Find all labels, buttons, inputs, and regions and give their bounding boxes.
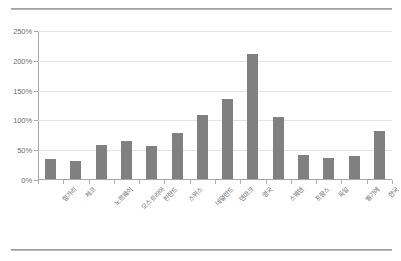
bar[interactable]: [70, 161, 81, 179]
bar[interactable]: [247, 54, 258, 179]
x-axis-category-label: 벨기에: [364, 185, 381, 202]
bar[interactable]: [349, 156, 360, 179]
y-axis-tick-label: 100%: [13, 116, 32, 125]
y-axis-tick-label: 200%: [13, 56, 32, 65]
bar[interactable]: [121, 141, 132, 179]
x-axis-category-label: 영국: [261, 185, 274, 198]
bars-group: [38, 31, 392, 180]
plot-area: 0%50%100%150%200%250%: [38, 31, 392, 180]
bar[interactable]: [323, 158, 334, 179]
x-axis-category-label: 프랑스: [313, 185, 330, 202]
top-divider-rule: [11, 8, 392, 10]
x-axis-category-label: 네덜란드: [214, 185, 235, 206]
bar[interactable]: [374, 131, 385, 179]
bar[interactable]: [273, 117, 284, 179]
x-axis-category-label: 독일: [337, 185, 350, 198]
y-axis-tick-label: 250%: [13, 27, 32, 36]
x-axis-category-label: 체코: [84, 185, 97, 198]
bar[interactable]: [146, 146, 157, 179]
bar[interactable]: [96, 145, 107, 179]
x-axis-category-label: 한국: [387, 185, 400, 198]
y-axis-tick-label: 50%: [17, 146, 32, 155]
bar[interactable]: [298, 155, 309, 179]
x-axis-category-label: 헝가리: [60, 185, 77, 202]
x-axis-category-label: 노르웨이: [113, 185, 134, 206]
bar-chart: 0%50%100%150%200%250% 헝가리체코노르웨이오스트리아핀란드스…: [0, 14, 401, 246]
bar[interactable]: [197, 115, 208, 179]
bar[interactable]: [222, 99, 233, 179]
x-tick-mark: [392, 180, 393, 184]
bottom-divider-rule: [11, 249, 392, 251]
x-axis-category-label: 덴마크: [237, 185, 254, 202]
chart-page: 0%50%100%150%200%250% 헝가리체코노르웨이오스트리아핀란드스…: [0, 0, 401, 261]
bar[interactable]: [45, 159, 56, 179]
bar[interactable]: [172, 133, 183, 179]
x-axis-labels-group: 헝가리체코노르웨이오스트리아핀란드스위스네덜란드덴마크영국스웨덴프랑스독일벨기에…: [38, 184, 392, 246]
x-axis-category-label: 스웨덴: [288, 185, 305, 202]
x-axis-category-label: 스위스: [187, 185, 204, 202]
y-axis-tick-label: 0%: [21, 176, 32, 185]
y-axis-tick-label: 150%: [13, 86, 32, 95]
